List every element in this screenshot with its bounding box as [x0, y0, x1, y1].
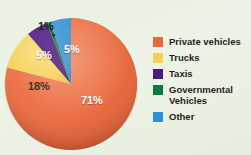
legend-label-trucks: Trucks [169, 52, 200, 63]
legend-label-governmental-line2: Vehicles [169, 95, 233, 106]
legend-swatch-governmental-vehicles [153, 85, 163, 95]
legend-label-taxis: Taxis [169, 68, 193, 79]
pie-label-other: 5% [64, 43, 80, 55]
legend-item-taxis[interactable]: Taxis [153, 68, 251, 79]
legend-swatch-other [153, 112, 163, 122]
legend-label-governmental-line1: Governmental [169, 84, 233, 95]
pie-chart-figure: 71% 18% 5% 1% 5% Private vehicles Trucks… [0, 0, 251, 155]
legend-swatch-taxis [153, 69, 163, 79]
pie-label-governmental-vehicles: 1% [38, 20, 54, 32]
pie-graphic: 71% 18% 5% 1% 5% [2, 14, 140, 150]
legend-item-trucks[interactable]: Trucks [153, 52, 251, 63]
legend-swatch-trucks [153, 53, 163, 63]
legend-item-governmental-vehicles[interactable]: GovernmentalVehicles [153, 84, 251, 106]
legend-item-other[interactable]: Other [153, 111, 251, 122]
legend-label-governmental-vehicles: GovernmentalVehicles [169, 84, 233, 106]
pie-label-taxis: 5% [36, 49, 52, 61]
chart-title-partial [150, 0, 250, 9]
legend-swatch-private-vehicles [153, 37, 163, 47]
pie-label-private-vehicles: 71% [81, 94, 103, 106]
pie-svg [2, 14, 140, 150]
legend-label-other: Other [169, 111, 194, 122]
pie-label-trucks: 18% [28, 80, 50, 92]
chart-legend: Private vehicles Trucks Taxis Government… [153, 36, 251, 127]
legend-label-private-vehicles: Private vehicles [169, 36, 241, 47]
legend-item-private-vehicles[interactable]: Private vehicles [153, 36, 251, 47]
